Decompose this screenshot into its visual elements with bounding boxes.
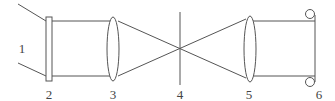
collimated-beam-right [253, 21, 315, 76]
top-circle-icon [306, 10, 315, 19]
optical-diagram: 1 2 3 4 5 6 [0, 0, 335, 101]
lens-3 [107, 17, 119, 81]
collimated-beam-left [52, 21, 110, 76]
label-4: 4 [177, 87, 184, 101]
lens-5 [244, 16, 256, 82]
filter-plate [46, 17, 52, 81]
crossing-beams [118, 19, 246, 78]
label-2: 2 [46, 87, 53, 101]
label-3: 3 [110, 87, 117, 101]
label-6: 6 [316, 87, 323, 101]
incoming-beam [18, 4, 46, 76]
bottom-circle-icon [306, 78, 315, 87]
label-5: 5 [246, 87, 253, 101]
label-1: 1 [19, 41, 26, 56]
